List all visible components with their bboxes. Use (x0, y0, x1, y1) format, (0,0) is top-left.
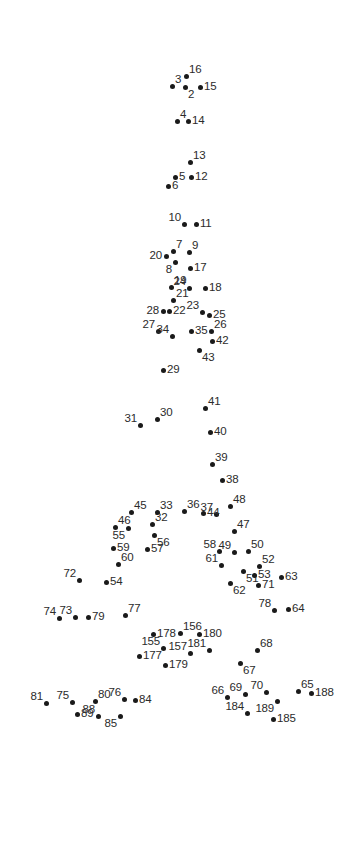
dot-number-label: 61 (206, 553, 218, 565)
dot-number-label: 69 (230, 682, 242, 694)
dot-point (138, 423, 143, 428)
dot-point (187, 286, 192, 291)
dot-number-label: 55 (113, 530, 125, 542)
dot-number-label: 89 (81, 708, 93, 720)
connect-the-dots-canvas: 2345678910111213141516171819202122232425… (0, 0, 351, 844)
dot-number-label: 179 (169, 659, 188, 671)
dot-point (152, 533, 157, 538)
dot-number-label: 189 (255, 703, 274, 715)
dot-number-label: 80 (98, 689, 110, 701)
dot-number-label: 14 (192, 115, 204, 127)
dot-point (164, 254, 169, 259)
dot-point (184, 74, 189, 79)
dot-point (194, 222, 199, 227)
dot-number-label: 4 (180, 109, 186, 121)
dot-number-label: 45 (134, 500, 146, 512)
dot-point (197, 348, 202, 353)
dot-point (225, 695, 230, 700)
dot-point (182, 222, 187, 227)
dot-number-label: 76 (109, 687, 121, 699)
dot-point (209, 329, 214, 334)
dot-point (203, 286, 208, 291)
dot-point (96, 714, 101, 719)
dot-point (264, 690, 269, 695)
dot-number-label: 79 (92, 611, 104, 623)
dot-point (256, 583, 261, 588)
dot-number-label: 12 (195, 171, 207, 183)
dot-point (203, 406, 208, 411)
dot-point (246, 549, 251, 554)
dot-point (137, 654, 142, 659)
dot-point (189, 175, 194, 180)
dot-number-label: 74 (44, 606, 56, 618)
dot-number-label: 71 (262, 579, 274, 591)
dot-number-label: 84 (139, 694, 151, 706)
dot-number-label: 48 (233, 494, 245, 506)
dot-point (161, 368, 166, 373)
dot-number-label: 73 (60, 605, 72, 617)
dot-point (232, 550, 237, 555)
dot-number-label: 38 (226, 474, 238, 486)
dot-point (238, 661, 243, 666)
dot-point (151, 632, 156, 637)
dot-number-label: 58 (204, 539, 216, 551)
dot-number-label: 27 (143, 319, 155, 331)
dot-point (198, 85, 203, 90)
dot-point (145, 547, 150, 552)
dot-point (44, 701, 49, 706)
dot-point (228, 504, 233, 509)
dot-number-label: 22 (173, 305, 185, 317)
dot-point (207, 648, 212, 653)
dot-point (186, 119, 191, 124)
dot-point (252, 573, 257, 578)
dot-point (116, 562, 121, 567)
dot-number-label: 40 (214, 426, 226, 438)
dot-point (279, 575, 284, 580)
dot-point (175, 119, 180, 124)
dot-point (187, 250, 192, 255)
dot-point (111, 546, 116, 551)
dot-number-label: 72 (64, 568, 76, 580)
dot-number-label: 46 (118, 515, 130, 527)
dot-number-label: 23 (187, 300, 199, 312)
dot-point (57, 616, 62, 621)
dot-point (126, 526, 131, 531)
dot-number-label: 11 (200, 218, 212, 230)
dot-point (255, 648, 260, 653)
dot-number-label: 35 (195, 325, 207, 337)
dot-number-label: 184 (225, 701, 244, 713)
dot-number-label: 17 (194, 262, 206, 274)
dot-point (309, 691, 314, 696)
dot-number-label: 42 (216, 335, 228, 347)
dot-number-label: 50 (251, 539, 263, 551)
dot-number-label: 10 (169, 212, 181, 224)
dot-point (188, 651, 193, 656)
dot-point (182, 509, 187, 514)
dot-point (77, 578, 82, 583)
dot-point (70, 700, 75, 705)
dot-point (241, 569, 246, 574)
dot-number-label: 181 (187, 638, 206, 650)
dot-point (86, 615, 91, 620)
dot-point (245, 711, 250, 716)
dot-number-label: 156 (183, 621, 202, 633)
dot-number-label: 185 (277, 713, 296, 725)
dot-number-label: 16 (189, 64, 201, 76)
dot-number-label: 8 (166, 264, 172, 276)
dot-number-label: 54 (110, 576, 122, 588)
dot-point (122, 697, 127, 702)
dot-point (173, 260, 178, 265)
dot-point (210, 462, 215, 467)
dot-number-label: 39 (215, 452, 227, 464)
dot-number-label: 70 (251, 680, 263, 692)
dot-number-label: 47 (237, 519, 249, 531)
dot-point (188, 266, 193, 271)
dot-number-label: 67 (243, 665, 255, 677)
dot-number-label: 2 (188, 89, 194, 101)
dot-number-label: 18 (209, 282, 221, 294)
dot-number-label: 77 (128, 603, 140, 615)
dot-point (150, 522, 155, 527)
dot-number-label: 29 (167, 364, 179, 376)
dot-point (75, 712, 80, 717)
dot-point (207, 313, 212, 318)
